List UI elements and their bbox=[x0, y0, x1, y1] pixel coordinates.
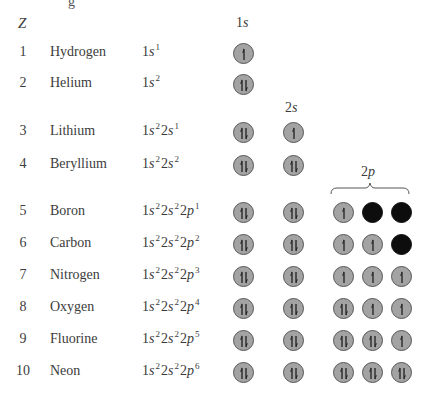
orbital-1s bbox=[233, 234, 254, 255]
electron-configuration: 1s2 bbox=[142, 75, 161, 91]
atomic-number: 7 bbox=[11, 267, 35, 283]
cut-off-caption-fragment: g bbox=[68, 0, 75, 10]
spin-pair-arrows-icon bbox=[284, 363, 305, 384]
spin-pair-arrows-icon bbox=[334, 299, 355, 320]
electron-configuration: 1s22s22p1 bbox=[142, 203, 200, 219]
orbital-2s bbox=[283, 155, 304, 176]
spin-pair-arrows-icon bbox=[234, 235, 255, 256]
curly-brace-2p bbox=[329, 182, 411, 196]
spin-up-arrow-icon bbox=[334, 267, 355, 288]
spin-up-arrow-icon bbox=[284, 123, 305, 144]
atomic-number: 4 bbox=[11, 156, 35, 172]
atomic-number: 5 bbox=[11, 203, 35, 219]
electron-configuration: 1s22s2 bbox=[142, 156, 180, 172]
orbital-2p-3 bbox=[391, 362, 412, 383]
atomic-number: 9 bbox=[11, 331, 35, 347]
electron-configuration: 1s1 bbox=[142, 44, 161, 60]
electron-configuration: 1s22s1 bbox=[142, 123, 180, 139]
electron-configuration: 1s22s22p4 bbox=[142, 299, 200, 315]
spin-pair-arrows-icon bbox=[234, 156, 255, 177]
orbital-2s bbox=[283, 362, 304, 383]
electron-configuration: 1s22s22p5 bbox=[142, 331, 200, 347]
subshell-label-1s: 1s bbox=[236, 15, 248, 31]
element-name: Beryllium bbox=[50, 156, 107, 172]
spin-up-arrow-icon bbox=[334, 203, 355, 224]
spin-pair-arrows-icon bbox=[234, 299, 255, 320]
orbital-2p-3 bbox=[391, 266, 412, 287]
orbital-1s bbox=[233, 155, 254, 176]
orbital-1s bbox=[233, 266, 254, 287]
orbital-1s bbox=[233, 43, 254, 64]
atomic-number: 10 bbox=[11, 363, 35, 379]
orbital-2p-2 bbox=[362, 362, 383, 383]
element-name: Lithium bbox=[50, 123, 95, 139]
atomic-number: 1 bbox=[11, 44, 35, 60]
orbital-2s bbox=[283, 266, 304, 287]
orbital-2s bbox=[283, 330, 304, 351]
spin-pair-arrows-icon bbox=[334, 363, 355, 384]
orbital-2p-1 bbox=[333, 330, 354, 351]
element-name: Hydrogen bbox=[50, 44, 106, 60]
orbital-1s bbox=[233, 122, 254, 143]
orbital-2s bbox=[283, 122, 304, 143]
orbital-2p-1 bbox=[333, 202, 354, 223]
orbital-1s bbox=[233, 330, 254, 351]
spin-pair-arrows-icon bbox=[234, 75, 255, 96]
orbital-2p-3 bbox=[391, 298, 412, 319]
orbital-2s bbox=[283, 298, 304, 319]
orbital-2p-2 bbox=[362, 202, 383, 223]
atomic-number: 8 bbox=[11, 299, 35, 315]
spin-up-arrow-icon bbox=[334, 235, 355, 256]
element-name: Oxygen bbox=[50, 299, 94, 315]
orbital-2p-1 bbox=[333, 298, 354, 319]
spin-up-arrow-icon bbox=[363, 299, 384, 320]
orbital-2s bbox=[283, 202, 304, 223]
orbital-1s bbox=[233, 202, 254, 223]
orbital-2p-1 bbox=[333, 266, 354, 287]
subshell-label-2s: 2s bbox=[285, 100, 297, 116]
spin-pair-arrows-icon bbox=[284, 331, 305, 352]
spin-up-arrow-icon bbox=[234, 44, 255, 65]
spin-pair-arrows-icon bbox=[234, 363, 255, 384]
orbital-2p-1 bbox=[333, 234, 354, 255]
orbital-1s bbox=[233, 362, 254, 383]
spin-pair-arrows-icon bbox=[234, 203, 255, 224]
atomic-number: 2 bbox=[11, 75, 35, 91]
orbital-2p-3 bbox=[391, 330, 412, 351]
spin-pair-arrows-icon bbox=[284, 156, 305, 177]
spin-pair-arrows-icon bbox=[284, 299, 305, 320]
element-name: Neon bbox=[50, 363, 80, 379]
orbital-1s bbox=[233, 74, 254, 95]
spin-pair-arrows-icon bbox=[334, 331, 355, 352]
spin-pair-arrows-icon bbox=[363, 363, 384, 384]
atomic-number: 6 bbox=[11, 235, 35, 251]
orbital-2p-2 bbox=[362, 298, 383, 319]
element-name: Nitrogen bbox=[50, 267, 100, 283]
spin-up-arrow-icon bbox=[392, 299, 413, 320]
orbital-2p-2 bbox=[362, 330, 383, 351]
subshell-label-2p: 2p bbox=[361, 164, 375, 180]
element-name: Fluorine bbox=[50, 331, 97, 347]
spin-pair-arrows-icon bbox=[284, 267, 305, 288]
orbital-2p-1 bbox=[333, 362, 354, 383]
electron-configuration: 1s22s22p6 bbox=[142, 363, 200, 379]
spin-up-arrow-icon bbox=[392, 331, 413, 352]
spin-pair-arrows-icon bbox=[234, 123, 255, 144]
orbital-2p-2 bbox=[362, 266, 383, 287]
spin-up-arrow-icon bbox=[392, 267, 413, 288]
element-name: Carbon bbox=[50, 235, 91, 251]
element-name: Boron bbox=[50, 203, 85, 219]
spin-up-arrow-icon bbox=[363, 235, 384, 256]
element-name: Helium bbox=[50, 75, 92, 91]
orbital-2s bbox=[283, 234, 304, 255]
spin-pair-arrows-icon bbox=[284, 235, 305, 256]
orbital-1s bbox=[233, 298, 254, 319]
orbital-2p-3 bbox=[391, 202, 412, 223]
orbital-2p-3 bbox=[391, 234, 412, 255]
atomic-number-header: Z bbox=[18, 15, 26, 31]
spin-pair-arrows-icon bbox=[363, 331, 384, 352]
spin-pair-arrows-icon bbox=[284, 203, 305, 224]
spin-pair-arrows-icon bbox=[234, 331, 255, 352]
orbital-2p-2 bbox=[362, 234, 383, 255]
spin-pair-arrows-icon bbox=[392, 363, 413, 384]
